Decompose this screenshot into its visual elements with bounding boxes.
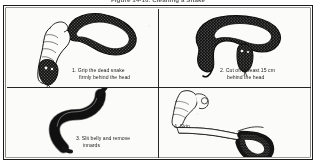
panel-3-caption: 3. Slit belly and remove innards: [76, 135, 130, 148]
panel-1-caption-line2: firmly behind the head: [72, 74, 130, 80]
panel-1-caption: 1. Grip the dead snake firmly behind the…: [72, 67, 130, 80]
panel-step-2: 2. Cut off at least 15 cm behind the hea…: [158, 8, 310, 87]
figure-plate: 1. Grip the dead snake firmly behind the…: [3, 5, 313, 160]
panel-4-caption-line1: 4. Skin: [174, 123, 190, 129]
panel-2-caption-line1: 2. Cut off at least 15 cm: [220, 67, 275, 73]
panel-step-4: 4. Skin: [158, 87, 310, 157]
panel-1-caption-line1: 1. Grip the dead snake: [72, 67, 125, 73]
figure-title: Figure 14-10. Cleaning a Snake: [0, 0, 316, 3]
vertical-divider: [158, 9, 159, 158]
panel-step-1: 1. Grip the dead snake firmly behind the…: [6, 8, 158, 87]
figure-plate-inner: 1. Grip the dead snake firmly behind the…: [6, 8, 310, 157]
panel-3-caption-line1: 3. Slit belly and remove: [76, 135, 130, 141]
panel-step-3: 3. Slit belly and remove innards: [6, 87, 158, 157]
horizontal-divider: [7, 87, 311, 88]
panel-2-caption: 2. Cut off at least 15 cm behind the hea…: [220, 67, 275, 80]
panel-4-caption: 4. Skin: [174, 123, 190, 129]
panel-2-caption-line2: behind the head: [220, 74, 275, 80]
panel-3-caption-line2: innards: [76, 142, 130, 148]
